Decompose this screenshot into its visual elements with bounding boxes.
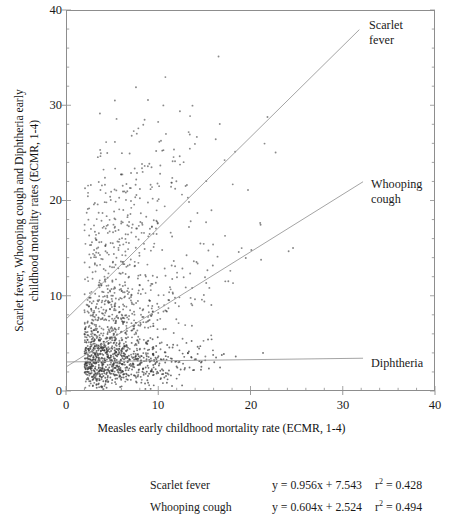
annotation-whooping-cough-line2: cough <box>371 192 401 206</box>
y-axis-title-line1: Scarlet fever, Whooping cough and Diphth… <box>13 89 26 331</box>
annotation-scarlet-fever-line1: Scarlet <box>369 18 403 32</box>
scatter-plot-figure: 40 30 20 10 0 0 10 20 30 40 Scarlet feve… <box>0 0 453 523</box>
x-tick-label: 30 <box>323 399 363 411</box>
x-tick-label: 0 <box>46 399 86 411</box>
legend-r-value: = 0.428 <box>386 478 422 492</box>
x-axis-title: Measles early childhood mortality rate (… <box>0 421 443 436</box>
legend-row: Whooping cough y = 0.604x + 2.524 r2 = 0… <box>0 500 453 520</box>
legend-r-squared: r2 = 0.428 <box>375 478 422 493</box>
x-tick-label: 20 <box>231 399 271 411</box>
annotation-scarlet-fever: Scarlet fever <box>369 18 453 47</box>
annotation-diphtheria-line1: Diphtheria <box>371 356 423 370</box>
annotation-whooping-cough-line1: Whooping <box>371 177 422 191</box>
legend-series-name: Whooping cough <box>150 500 270 515</box>
y-axis-title: Scarlet fever, Whooping cough and Diphth… <box>13 46 42 376</box>
legend-equation: y = 0.956x + 7.543 <box>272 478 362 493</box>
legend-r-squared: r2 = 0.494 <box>375 500 422 515</box>
annotation-whooping-cough: Whooping cough <box>371 177 453 206</box>
legend-series-name: Scarlet fever <box>150 478 270 493</box>
y-tick-label: 40 <box>28 4 62 16</box>
annotation-diphtheria: Diphtheria <box>371 356 453 371</box>
x-tick-label: 10 <box>138 399 178 411</box>
y-axis-title-line2: childhood mortality rates (ECMR, 1-4) <box>27 120 40 301</box>
y-tick-label: 0 <box>28 385 62 397</box>
legend-r-exponent: 2 <box>379 477 383 486</box>
legend: Scarlet fever y = 0.956x + 7.543 r2 = 0.… <box>0 472 453 520</box>
legend-row: Scarlet fever y = 0.956x + 7.543 r2 = 0.… <box>0 478 453 498</box>
x-axis-ticks: 0 10 20 30 40 <box>0 399 453 417</box>
legend-r-exponent: 2 <box>379 499 383 508</box>
legend-equation: y = 0.604x + 2.524 <box>272 500 362 515</box>
x-tick-label: 40 <box>415 399 453 411</box>
annotation-scarlet-fever-line2: fever <box>369 33 394 47</box>
legend-r-value: = 0.494 <box>386 500 422 514</box>
